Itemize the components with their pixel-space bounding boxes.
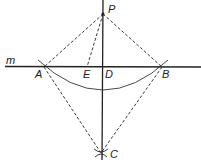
segment-pb <box>103 14 162 67</box>
point-p <box>101 12 104 15</box>
segment-ac <box>44 67 101 153</box>
arc-tick-c <box>94 149 108 152</box>
label-c: C <box>110 148 118 160</box>
segment-pe <box>87 14 103 67</box>
label-d: D <box>105 68 113 80</box>
label-p: P <box>108 3 116 15</box>
label-b: B <box>162 68 169 80</box>
construction-diagram: m P A E D B C <box>0 0 201 160</box>
label-m: m <box>6 54 15 66</box>
arc-tick-c2 <box>95 154 107 157</box>
segment-pa <box>44 14 103 67</box>
label-a: A <box>34 68 42 80</box>
label-e: E <box>83 68 91 80</box>
perpendicular-line <box>102 0 103 160</box>
